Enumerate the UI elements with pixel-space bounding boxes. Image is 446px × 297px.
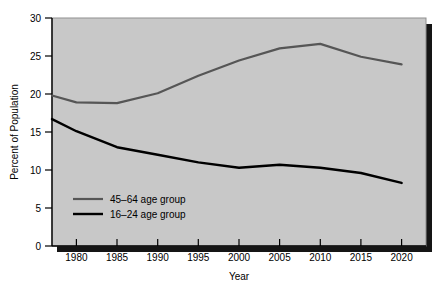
x-tick-label: 2000 bbox=[228, 252, 251, 263]
x-axis-tick-labels: 1980 1985 1990 1995 2000 2005 2010 2015 … bbox=[65, 252, 413, 263]
x-tick-label: 1995 bbox=[187, 252, 210, 263]
x-tick-label: 2020 bbox=[390, 252, 413, 263]
y-tick-label: 25 bbox=[30, 51, 42, 62]
y-tick-label: 5 bbox=[35, 203, 41, 214]
legend-label-16-24: 16–24 age group bbox=[110, 209, 186, 220]
y-tick-label: 30 bbox=[30, 13, 42, 24]
y-axis-title: Percent of Population bbox=[9, 84, 20, 180]
plot-panel bbox=[52, 18, 426, 246]
y-tick-label: 15 bbox=[30, 127, 42, 138]
y-tick-label: 0 bbox=[35, 241, 41, 252]
x-axis-title: Year bbox=[229, 271, 250, 282]
x-tick-label: 2015 bbox=[350, 252, 373, 263]
legend-label-45-64: 45–64 age group bbox=[110, 194, 186, 205]
x-tick-label: 1985 bbox=[106, 252, 129, 263]
x-tick-label: 2010 bbox=[309, 252, 332, 263]
chart-figure: 0 5 10 15 20 25 30 1980 1985 1990 1995 bbox=[0, 0, 446, 297]
line-chart: 0 5 10 15 20 25 30 1980 1985 1990 1995 bbox=[0, 0, 446, 297]
y-tick-label: 10 bbox=[30, 165, 42, 176]
y-tick-label: 20 bbox=[30, 89, 42, 100]
x-tick-label: 1990 bbox=[147, 252, 170, 263]
x-tick-label: 1980 bbox=[65, 252, 88, 263]
x-tick-label: 2005 bbox=[268, 252, 291, 263]
